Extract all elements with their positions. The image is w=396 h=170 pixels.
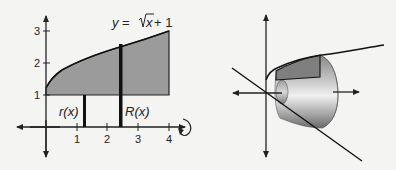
outer-radius-bar (119, 44, 123, 127)
shaded-region (46, 31, 169, 95)
svg-text:y =: y = (111, 15, 130, 30)
left-figure: 3 2 1 1 2 3 4 r(x) R(x) y = x + 1 (17, 14, 191, 157)
x-tick-2: 2 (104, 133, 110, 145)
inner-radius-bar (83, 95, 86, 127)
x-tick-1: 1 (74, 133, 80, 145)
cross-section-region (276, 55, 320, 80)
svg-text:+ 1: + 1 (154, 15, 172, 30)
y-tick-2: 2 (34, 57, 40, 69)
y-tick-1: 1 (34, 89, 40, 101)
x-tick-3: 3 (135, 133, 141, 145)
equation-label: y = x + 1 (111, 14, 172, 30)
diagram-canvas: 3 2 1 1 2 3 4 r(x) R(x) y = x + 1 (0, 0, 396, 170)
outer-radius-label: R(x) (125, 104, 150, 119)
y-tick-3: 3 (34, 25, 40, 37)
x-tick-4: 4 (166, 133, 172, 145)
right-figure (232, 15, 384, 161)
svg-text:x: x (145, 15, 153, 30)
inner-radius-label: r(x) (59, 104, 79, 119)
